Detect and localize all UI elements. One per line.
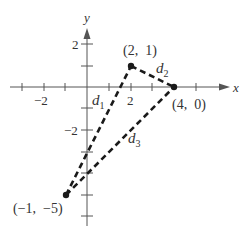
segment-d3	[66, 87, 174, 195]
point-b-label: (4, 0)	[172, 97, 206, 113]
point-a	[128, 63, 134, 69]
point-c	[63, 192, 69, 198]
d2-sub: 2	[164, 68, 169, 79]
x-axis-label: x	[232, 80, 239, 95]
segment-d2-label: d2	[156, 60, 169, 79]
d3-sub: 3	[136, 138, 141, 149]
segment-d3-label: d3	[128, 130, 141, 149]
segment-d1-label: d1	[92, 92, 105, 111]
coordinate-plane: x y −2 2 2 −2 (2, 1) (4, 0) (−1, −5) d1 …	[0, 0, 245, 231]
point-b	[171, 84, 177, 90]
y-axis-arrow-icon	[84, 28, 91, 39]
x-tick-label-neg2: −2	[34, 93, 48, 108]
x-axis-arrow-icon	[219, 84, 230, 91]
d1-sub: 1	[100, 100, 105, 111]
y-tick-label-neg2: −2	[64, 123, 78, 138]
point-a-label: (2, 1)	[123, 43, 157, 59]
y-axis-label: y	[82, 10, 90, 25]
point-c-label: (−1, −5)	[13, 201, 63, 217]
x-tick-label-2: 2	[127, 93, 134, 108]
y-tick-label-2: 2	[72, 37, 79, 52]
